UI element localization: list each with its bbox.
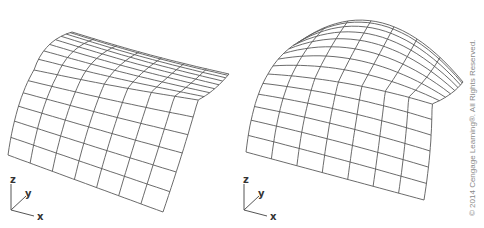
wireframe-mesh-left — [8, 32, 229, 212]
mesh-column-line — [424, 82, 463, 200]
mesh-row-line — [302, 20, 463, 82]
y-axis-line — [11, 196, 26, 210]
mesh-column-line — [52, 46, 117, 172]
mesh-column-line — [297, 21, 348, 166]
y-axis-line — [244, 196, 259, 210]
figure: z y x z y x — [0, 0, 484, 228]
mesh-row-line — [284, 47, 451, 94]
copyright-notice: © 2014 Cengage Learning®. All Rights Res… — [468, 56, 477, 216]
mesh-row-line — [258, 94, 431, 135]
mesh-row-line — [251, 120, 428, 167]
y-axis-label: y — [25, 188, 32, 199]
z-axis-label: z — [10, 174, 16, 185]
mesh-column-line — [141, 69, 207, 204]
mesh-row-line — [246, 152, 424, 200]
mesh-row-line — [300, 22, 462, 83]
mesh-row-line — [28, 81, 193, 117]
mesh-row-line — [278, 56, 445, 98]
mesh-row-line — [34, 70, 198, 100]
mesh-row-line — [273, 65, 439, 100]
x-axis-label: x — [37, 211, 44, 222]
mesh-row-line — [8, 155, 163, 212]
mesh-column-line — [119, 64, 184, 196]
x-axis-line — [244, 210, 267, 216]
x-axis-line — [11, 210, 34, 216]
y-axis-label: y — [258, 188, 265, 199]
x-axis-label: x — [270, 211, 277, 222]
axis-triad-left: z y x — [10, 174, 44, 222]
axis-triad-right: z y x — [243, 174, 277, 222]
mesh-row-line — [263, 83, 432, 119]
mesh-row-line — [268, 74, 432, 104]
wireframe-mesh-right — [246, 20, 463, 200]
mesh-row-line — [255, 107, 431, 152]
z-axis-label: z — [243, 174, 249, 185]
mesh-column-line — [399, 57, 440, 193]
